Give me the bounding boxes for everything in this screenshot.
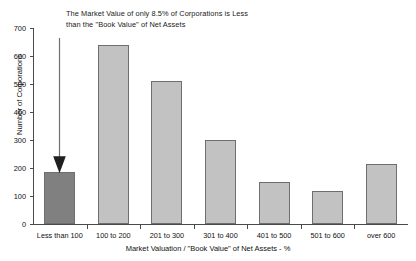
y-tick-label: 100	[4, 192, 26, 201]
x-tick-mark	[140, 225, 141, 229]
bar-6	[312, 191, 343, 224]
x-category-label: over 600	[367, 231, 395, 240]
bar-3	[151, 81, 182, 224]
x-category-label: 201 to 300	[150, 231, 185, 240]
x-category-label: 301 to 400	[203, 231, 238, 240]
annotation-arrow	[50, 38, 70, 174]
plot-area	[33, 28, 408, 224]
y-tick-label: 700	[4, 24, 26, 33]
x-tick-mark	[247, 225, 248, 229]
y-tick-label: 400	[4, 108, 26, 117]
bar-7	[366, 164, 397, 224]
x-tick-mark	[194, 225, 195, 229]
bar-2	[98, 45, 129, 224]
y-tick-label: 600	[4, 52, 26, 61]
y-tick-label: 300	[4, 136, 26, 145]
bar-5	[259, 182, 290, 224]
bar-1	[44, 172, 75, 224]
x-tick-mark	[87, 225, 88, 229]
x-axis-line	[33, 224, 408, 225]
chart-annotation-text: The Market Value of only 8.5% of Corpora…	[66, 9, 336, 30]
x-category-label: 100 to 200	[96, 231, 131, 240]
y-axis-ticks: 0100200300400500600700	[0, 0, 26, 261]
x-category-label: 401 to 500	[257, 231, 292, 240]
y-tick-label: 0	[4, 220, 26, 229]
x-category-label: Less than 100	[37, 231, 83, 240]
chart-screenshot: The Market Value of only 8.5% of Corpora…	[0, 0, 416, 261]
x-axis-title: Market Valuation / "Book Value" of Net A…	[0, 244, 416, 253]
down-arrow-icon	[50, 38, 70, 174]
x-category-label: 501 to 600	[310, 231, 345, 240]
y-tick-label: 200	[4, 164, 26, 173]
x-tick-mark	[354, 225, 355, 229]
x-tick-mark	[301, 225, 302, 229]
bar-4	[205, 140, 236, 224]
y-tick-label: 500	[4, 80, 26, 89]
